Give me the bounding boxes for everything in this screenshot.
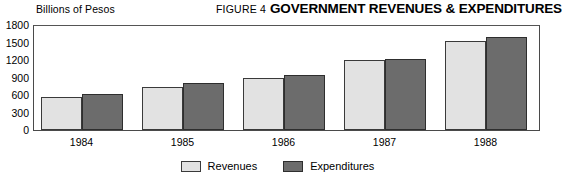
y-axis-tick-label: 1200 [6, 55, 29, 65]
bar-revenues-1984 [41, 97, 82, 130]
bar-expenditures-1987 [385, 59, 426, 130]
bar-expenditures-1986 [284, 75, 325, 130]
x-axis: 19841985198619871988 [34, 136, 539, 152]
legend-entry-expenditures: Expenditures [283, 160, 374, 172]
legend-label: Revenues [208, 160, 258, 172]
x-axis-tick-label: 1986 [272, 136, 295, 148]
y-axis-tick-label: 1800 [6, 20, 29, 30]
bar-revenues-1988 [445, 41, 486, 130]
y-axis-tick-label: 0 [23, 125, 29, 135]
bar-expenditures-1984 [82, 94, 123, 130]
bar-revenues-1986 [243, 78, 284, 131]
chart-plot-area: 0300600900120015001800 [0, 0, 555, 140]
x-axis-tick-label: 1985 [171, 136, 194, 148]
chart-legend: RevenuesExpenditures [0, 156, 555, 176]
bar-revenues-1985 [142, 87, 183, 130]
y-axis-tick-label: 300 [11, 108, 29, 118]
bar-group [142, 25, 224, 130]
x-axis-tick-label: 1987 [373, 136, 396, 148]
x-axis-tick-label: 1984 [70, 136, 93, 148]
bar-revenues-1987 [344, 60, 385, 130]
bar-expenditures-1988 [486, 37, 527, 130]
y-axis: 0300600900120015001800 [0, 25, 31, 131]
legend-swatch-expenditures-icon [283, 161, 303, 172]
legend-swatch-revenues-icon [181, 161, 201, 172]
bar-expenditures-1985 [183, 83, 224, 130]
bar-group [344, 25, 426, 130]
y-axis-tick-label: 1500 [6, 38, 29, 48]
legend-label: Expenditures [310, 160, 374, 172]
bar-group [243, 25, 325, 130]
bar-group [41, 25, 123, 130]
bars-layer [34, 25, 539, 130]
x-axis-tick-label: 1988 [474, 136, 497, 148]
legend-entry-revenues: Revenues [181, 160, 258, 172]
bar-group [445, 25, 527, 130]
y-axis-tick-label: 900 [11, 73, 29, 83]
y-axis-tick-label: 600 [11, 90, 29, 100]
